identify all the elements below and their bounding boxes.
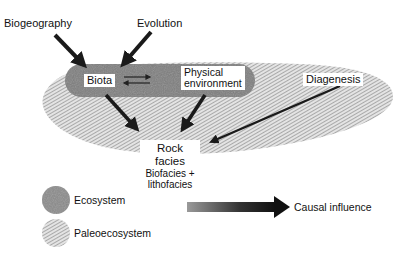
biogeography-label: Biogeography <box>4 17 72 29</box>
evolution-label: Evolution <box>137 17 182 29</box>
physical-environment-line2: environment <box>184 78 242 89</box>
arrow-biogeography-to-biota <box>55 35 82 63</box>
diagenesis-label: Diagenesis <box>303 73 363 86</box>
physical-environment-node: Physical environment <box>181 66 245 90</box>
arrow-evolution-to-ecosystem <box>125 32 151 62</box>
causal-influence-legend-arrow <box>187 196 290 218</box>
ecosystem-legend-label: Ecosystem <box>74 194 125 206</box>
paleoecosystem-legend-swatch <box>42 219 70 247</box>
rock-facies-title: Rock facies <box>141 142 199 168</box>
diagram-canvas <box>0 0 411 259</box>
rock-facies-line2: lithofacies <box>141 179 199 190</box>
paleoecosystem-legend-label: Paleoecosystem <box>74 227 151 239</box>
biota-node: Biota <box>84 74 115 87</box>
causal-influence-legend-label: Causal influence <box>294 201 372 213</box>
rock-facies-line1: Biofacies + <box>141 168 199 179</box>
rock-facies-node: Rock facies Biofacies + lithofacies <box>140 140 200 192</box>
